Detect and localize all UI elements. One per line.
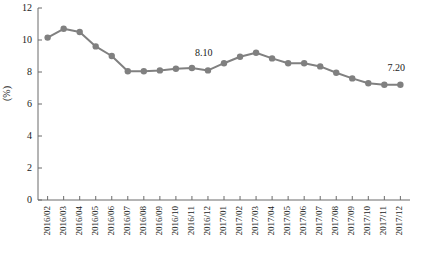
plot-area xyxy=(0,0,424,261)
data-point xyxy=(125,68,131,74)
data-point xyxy=(60,26,66,32)
data-point xyxy=(301,60,307,66)
data-point xyxy=(189,65,195,71)
data-point xyxy=(269,55,275,61)
x-tick-marks xyxy=(48,196,401,200)
series-markers xyxy=(44,26,403,88)
data-point xyxy=(349,75,355,81)
y-tick-marks xyxy=(38,8,42,200)
data-point xyxy=(317,63,323,69)
data-point xyxy=(205,67,211,73)
data-point xyxy=(237,54,243,60)
data-point-label: 7.20 xyxy=(387,63,405,73)
data-point xyxy=(93,43,99,49)
line-chart: (%) 024681012 2016/022016/032016/042016/… xyxy=(0,0,424,261)
data-point xyxy=(157,67,163,73)
data-point xyxy=(381,82,387,88)
data-point-label: 8.10 xyxy=(195,48,213,58)
data-point xyxy=(76,29,82,35)
series-line xyxy=(48,29,401,85)
data-point xyxy=(333,70,339,76)
data-point xyxy=(285,60,291,66)
data-point xyxy=(109,53,115,59)
data-point xyxy=(397,82,403,88)
data-point xyxy=(141,68,147,74)
data-point xyxy=(173,66,179,72)
data-point xyxy=(365,80,371,86)
data-point xyxy=(253,50,259,56)
data-point xyxy=(44,34,50,40)
data-series xyxy=(44,26,403,88)
axes xyxy=(38,8,410,200)
data-point xyxy=(221,60,227,66)
